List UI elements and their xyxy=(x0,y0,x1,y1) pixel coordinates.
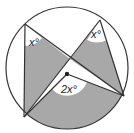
circle-angle-diagram: x° x° 2x° xyxy=(0,0,134,133)
center-dot xyxy=(65,72,69,76)
angle-label-a: x° xyxy=(28,36,40,48)
angle-label-b: x° xyxy=(90,28,102,40)
angle-label-center: 2x° xyxy=(60,83,78,95)
